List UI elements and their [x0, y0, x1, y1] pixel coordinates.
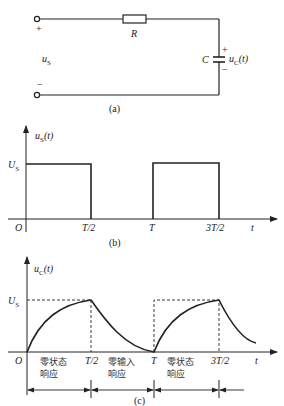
t-label-c: t	[255, 355, 258, 366]
chart-b	[8, 126, 277, 232]
tick-T-b: T	[149, 222, 156, 233]
y-label-c: uC(t)	[34, 263, 54, 277]
region-2-line1: 零输入	[108, 356, 135, 367]
capacitor-plus: +	[222, 44, 228, 55]
level-label-b: US	[8, 159, 19, 173]
terminal-top	[34, 16, 39, 21]
level-label-c: US	[8, 295, 19, 309]
capacitor-minus: −	[222, 64, 228, 75]
terminal-bottom	[34, 92, 39, 97]
region-3-line2: 响应	[167, 368, 185, 379]
circuit-diagram	[34, 15, 225, 98]
region-1-line2: 响应	[40, 368, 58, 379]
tick-half-b: T/2	[82, 222, 95, 233]
caption-c: (c)	[134, 395, 145, 406]
pulse-1	[26, 164, 91, 219]
tick-3half-c: 3T/2	[210, 355, 229, 366]
pulse-2	[153, 163, 219, 219]
caption-b: (b)	[109, 237, 121, 249]
source-plus: +	[36, 23, 42, 34]
t-label-b: t	[251, 222, 254, 233]
tick-half-c: T/2	[85, 355, 98, 366]
resistor	[123, 15, 146, 23]
tick-3half-b: 3T/2	[205, 222, 224, 233]
tick-T-c: T	[151, 355, 158, 366]
region-1-line1: 零状态	[40, 356, 67, 367]
caption-a: (a)	[109, 103, 120, 115]
origin-b: O	[15, 222, 22, 233]
region-2-line2: 响应	[108, 368, 126, 379]
capacitor-label: C	[202, 54, 209, 65]
resistor-label: R	[130, 28, 137, 39]
source-minus: −	[37, 79, 43, 90]
pulse-dashed-2	[154, 300, 219, 352]
y-label-b: uS(t)	[35, 130, 54, 144]
region-3-line1: 零状态	[167, 356, 194, 367]
figure: + − uS R C + − uC(t) (a) uS(t) US O T/2 …	[0, 0, 284, 406]
origin-c: O	[15, 355, 22, 366]
capacitor-voltage-label: uC(t)	[229, 53, 249, 67]
uc-curve	[27, 300, 256, 352]
source-voltage-label: uS	[42, 53, 51, 67]
